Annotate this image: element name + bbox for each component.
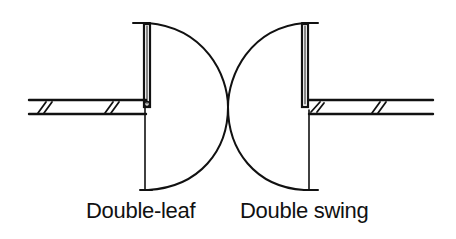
label-double-swing: Double swing xyxy=(240,198,368,224)
label-double-leaf: Double-leaf xyxy=(86,198,195,224)
double-swing-symbol xyxy=(228,23,433,190)
right-swing-arc xyxy=(228,23,304,190)
left-wall xyxy=(29,100,146,114)
right-wall xyxy=(309,100,433,114)
left-swing-arc xyxy=(148,23,228,190)
door-symbols-diagram xyxy=(0,0,456,239)
double-leaf-symbol xyxy=(29,23,228,190)
